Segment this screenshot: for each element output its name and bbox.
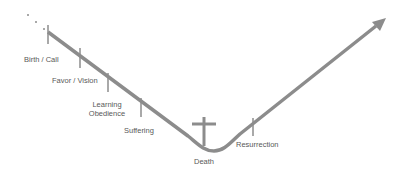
label-learning-obedience: Learning Obedience — [85, 100, 129, 118]
label-suffering: Suffering — [124, 126, 154, 135]
journey-path — [48, 26, 376, 151]
label-learning: Learning — [85, 100, 129, 109]
ellipsis-dots — [27, 14, 45, 30]
label-obedience: Obedience — [85, 109, 129, 118]
label-birth-call: Birth / Call — [24, 55, 59, 64]
label-favor-vision: Favor / Vision — [52, 76, 98, 85]
label-death: Death — [194, 157, 214, 166]
journey-diagram — [0, 0, 403, 173]
label-resurrection: Resurrection — [236, 140, 279, 149]
